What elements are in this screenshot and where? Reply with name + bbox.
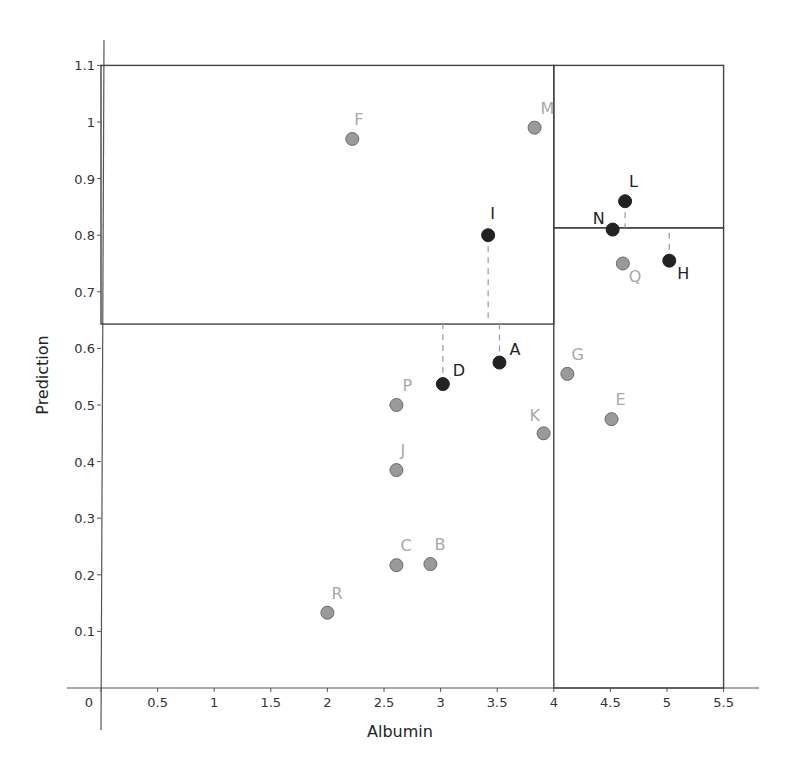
point-K [537,427,550,440]
x-tick-label: 5.5 [713,695,734,710]
x-tick-label: 1 [210,695,218,710]
residual-lines [443,201,669,384]
point-label-R: R [331,584,342,603]
x-tick-label: 5 [663,695,671,710]
point-L [619,195,632,208]
point-D [436,378,449,391]
x-axis-title: Albumin [367,722,433,741]
data-points: ILNHADFMQGPEKJCBR [321,99,689,620]
point-R [321,606,334,619]
region-boundaries [101,65,724,688]
x-tick-label: 0 [85,695,93,710]
x-tick-label: 1.5 [260,695,281,710]
region-right-lower [554,228,724,688]
y-tick-label: 1.1 [74,58,95,73]
point-C [390,559,403,572]
y-tick-label: 0.2 [74,568,95,583]
point-N [606,223,619,236]
point-E [605,413,618,426]
point-label-Q: Q [629,267,642,286]
point-label-H: H [677,264,689,283]
point-label-C: C [400,536,411,555]
y-tick-label: 0.8 [74,228,95,243]
point-label-K: K [530,406,541,425]
y-tick-label: 0.9 [74,172,95,187]
x-tick-label: 3.5 [487,695,508,710]
point-label-P: P [402,376,412,395]
point-label-M: M [541,99,555,118]
point-label-G: G [571,345,583,364]
point-label-F: F [354,110,363,129]
y-tick-label: 0.6 [74,341,95,356]
point-label-A: A [509,340,520,359]
x-tick-label: 3 [436,695,444,710]
point-label-E: E [616,390,626,409]
y-tick-label: 0.7 [74,285,95,300]
point-label-D: D [453,361,465,380]
point-H [663,254,676,267]
region-right-upper [554,65,724,227]
point-J [390,464,403,477]
x-tick-label: 0.5 [147,695,168,710]
y-tick-label: 1 [87,115,95,130]
y-tick-label: 0.1 [74,624,95,639]
y-tick-label: 0.4 [74,455,95,470]
point-B [424,558,437,571]
point-Q [616,257,629,270]
point-F [346,132,359,145]
y-tick-label: 0.3 [74,511,95,526]
point-P [390,399,403,412]
point-M [528,121,541,134]
point-label-N: N [593,209,605,228]
point-label-J: J [399,441,405,460]
point-label-I: I [490,204,495,223]
region-left [101,65,554,324]
axes: 00.511.522.533.544.555.50.10.20.30.40.50… [67,40,759,730]
x-tick-label: 2.5 [374,695,395,710]
point-G [561,367,574,380]
point-I [482,229,495,242]
point-label-L: L [629,172,638,191]
point-label-B: B [434,535,445,554]
y-axis-title: Prediction [33,335,52,414]
x-tick-label: 4.5 [600,695,621,710]
point-A [493,356,506,369]
y-tick-label: 0.5 [74,398,95,413]
x-tick-label: 4 [550,695,558,710]
x-tick-label: 2 [323,695,331,710]
scatter-chart: 00.511.522.533.544.555.50.10.20.30.40.50… [0,0,795,770]
